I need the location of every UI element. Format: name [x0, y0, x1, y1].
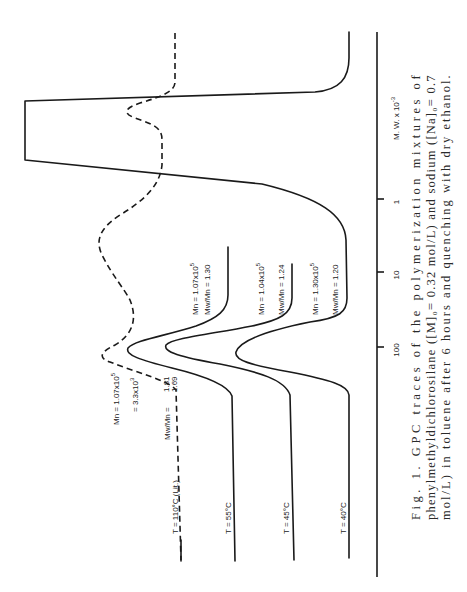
annot-110c-pdi: Mw/Mn =: [163, 407, 172, 440]
annot-110c-mn2: = 3.3x103: [129, 377, 140, 412]
mw-axis: 1 10 100 M. W. x 10-3: [377, 32, 401, 577]
figure-caption: Fig. 1. GPC traces of the polymerization…: [409, 75, 453, 520]
annot-45c-pdi: Mw/Mn = 1.24: [277, 264, 286, 315]
tick-label-1: 1: [392, 199, 401, 204]
annot-55c-pdi: Mw/Mn = 1.30: [203, 264, 212, 315]
trace-110c-lit: [99, 33, 181, 560]
axis-title: M. W. x 10-3: [390, 96, 401, 140]
annot-40c-mn: Mn = 1.30x105: [309, 262, 320, 315]
annot-55c-mn: Mn = 1.07x105: [189, 262, 200, 315]
trace-40c: [25, 32, 349, 558]
annot-110c-mn: Mn = 1.07x105: [110, 372, 121, 425]
gpc-figure: 1 10 100 M. W. x 10-3 T = 110°C (Lit.) T…: [0, 0, 467, 592]
annot-40c-pdi: Mw/Mn = 1.20: [331, 264, 340, 315]
tick-label-100: 100: [392, 343, 401, 357]
trace-55c: [128, 247, 235, 561]
label-55c: T = 55°C: [224, 502, 233, 534]
annot-110c-pdi-b: 1.69: [170, 376, 179, 392]
label-110c: T = 110°C (Lit.): [171, 480, 180, 534]
tick-label-10: 10: [392, 270, 401, 279]
caption-line-1: Fig. 1. GPC traces of the polymerization…: [409, 75, 423, 520]
label-45c: T = 45°C: [282, 502, 291, 534]
caption-line-2: phenylmethyldichlorosilane ([M]₀= 0.32 m…: [424, 75, 438, 520]
caption-line-3: mol/L) in toluene after 6 hours and quen…: [439, 75, 453, 520]
label-40c: T = 40°C: [339, 502, 348, 534]
annot-45c-mn: Mn = 1.04x105: [255, 262, 266, 315]
